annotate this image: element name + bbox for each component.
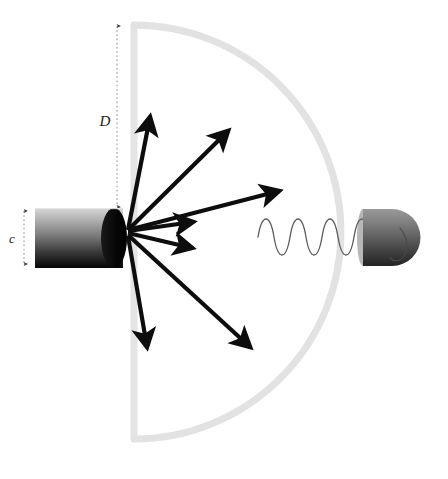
ray-lower-diagonal (128, 235, 250, 347)
receiver-probe (357, 209, 420, 266)
source-aperture-tip (101, 208, 127, 268)
dimension-label-c: c (9, 231, 15, 246)
diagram-canvas: D c (0, 0, 448, 479)
receiver-back-face (357, 209, 363, 266)
source-top-highlight (35, 208, 123, 209)
antenna-radiation-diagram: D c (0, 0, 448, 479)
aperture-antenna-source (35, 208, 127, 268)
boundary-arc (134, 25, 341, 439)
dimension-label-D: D (99, 113, 111, 129)
dimension-line-D: D (99, 26, 117, 207)
d-shaped-boundary (134, 25, 341, 439)
radiation-rays (128, 117, 279, 347)
dimension-line-c: c (9, 211, 24, 264)
receiver-body (363, 209, 420, 266)
